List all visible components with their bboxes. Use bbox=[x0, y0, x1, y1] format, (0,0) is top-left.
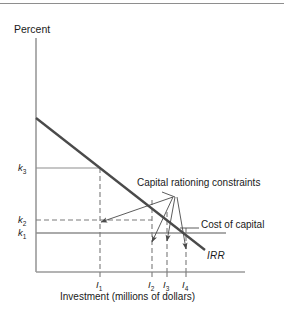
cost-of-capital-label: Cost of capital bbox=[201, 220, 264, 230]
y-tick-label-k2: k2 bbox=[18, 214, 26, 227]
y-tick-label-k1: k1 bbox=[18, 227, 26, 240]
x-tick-label-i4: I4 bbox=[182, 279, 188, 292]
x-axis-title: Investment (millions of dollars) bbox=[60, 292, 195, 302]
arrow-to-i4 bbox=[177, 197, 186, 249]
arrow-to-i3 bbox=[167, 197, 175, 241]
x-tick-label-i3: I3 bbox=[163, 279, 169, 292]
chart-axes bbox=[36, 38, 245, 272]
capital-rationing-constraints-label: Capital rationing constraints bbox=[137, 178, 260, 188]
arrow-to-i1 bbox=[101, 197, 173, 222]
crc-label-leader bbox=[162, 192, 175, 197]
x-tick-label-i1: I1 bbox=[96, 279, 102, 292]
y-tick-label-k3: k3 bbox=[18, 162, 26, 175]
capital-rationing-chart bbox=[0, 0, 284, 317]
arrow-to-i2 bbox=[152, 197, 173, 242]
y-axis-title: Percent bbox=[14, 24, 50, 35]
irr-curve-label: IRR bbox=[207, 251, 225, 261]
x-tick-label-i2: I2 bbox=[148, 279, 154, 292]
